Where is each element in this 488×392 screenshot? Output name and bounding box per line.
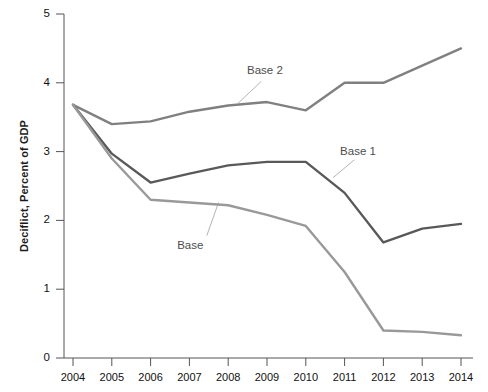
series-label-base: Base [177,240,203,252]
x-tick-label: 2009 [247,372,287,383]
y-tick-label: 3 [28,146,50,158]
series-label-base-2: Base 2 [247,65,283,77]
x-tick-label: 2006 [131,372,171,383]
y-tick-label: 5 [28,8,50,20]
series-label-base-1: Base 1 [340,146,376,158]
leader-line [207,203,219,236]
y-tick-label: 2 [28,214,50,226]
x-tick-label: 2004 [53,372,93,383]
x-tick-label: 2011 [325,372,365,383]
plot-area [0,0,488,392]
x-tick-label: 2005 [92,372,132,383]
series-lines [73,48,461,335]
series-line-base [73,105,461,335]
x-tick-label: 2008 [208,372,248,383]
x-tick-label: 2013 [402,372,442,383]
y-tick-label: 4 [28,77,50,89]
leader-line [238,81,261,103]
x-tick-label: 2007 [169,372,209,383]
chart-figure: Deciflict, Percent of GDP 012345 2004200… [0,0,488,392]
y-tick-label: 1 [28,283,50,295]
x-tick-label: 2010 [286,372,326,383]
y-axis-title: Deciflict, Percent of GDP [18,96,30,276]
series-line-base-2 [73,48,461,124]
series-line-base-1 [73,105,461,243]
x-tick-label: 2012 [363,372,403,383]
x-tick-label: 2014 [441,372,481,383]
leader-line [333,160,354,178]
y-tick-label: 0 [28,352,50,364]
